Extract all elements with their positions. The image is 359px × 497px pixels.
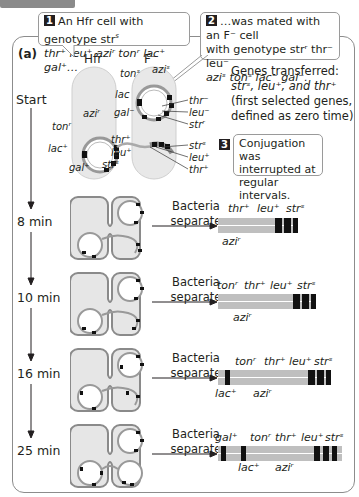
hfr-label: Hfr	[84, 52, 102, 66]
panel-label: (a)	[18, 47, 37, 61]
step-number-1: 1	[44, 15, 55, 26]
step-number-3: 3	[219, 134, 233, 153]
header-tab	[0, 0, 75, 8]
cells-25min	[70, 421, 150, 493]
callout-2: 2…was mated with an F⁻ cell with genotyp…	[200, 12, 340, 60]
separate-arrows	[150, 222, 220, 462]
time-25min: 25 min	[17, 443, 60, 458]
timeline-arrows	[26, 108, 38, 448]
callout-1-line1: An Hfr cell with genotype str	[44, 15, 143, 46]
callout-1-pointer	[60, 45, 80, 59]
gene-leader-lines	[150, 95, 190, 177]
step-number-2: 2	[206, 15, 217, 26]
callout-1: 1An Hfr cell with genotype strs thr⁺ leu…	[38, 12, 190, 46]
time-start: Start	[16, 92, 47, 107]
genes-transferred-note: Genes transferred: strˢ, leu⁺, and thr⁺ …	[231, 64, 353, 124]
cells-10min	[70, 269, 150, 341]
cells-16min	[70, 345, 150, 417]
time-16min: 16 min	[17, 366, 60, 381]
time-10min: 10 min	[17, 290, 60, 305]
cells-8min	[70, 193, 150, 265]
callout-3: Conjugation was interrupted at regular i…	[233, 134, 323, 176]
